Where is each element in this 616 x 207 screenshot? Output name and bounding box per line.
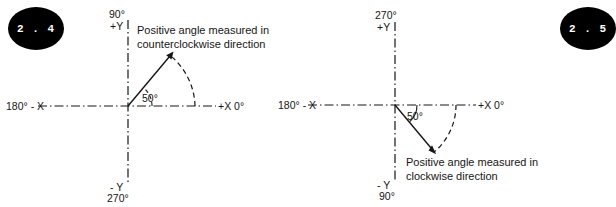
figure-2-5: 2 . 5 270° +Y - Y 90° 180° - X +X 0° 50°… [276,0,552,207]
y-axis-top-degree-label: 90° [109,8,125,20]
y-axis-positive-label: +Y [377,21,390,33]
y-axis-bottom-degree-label: 90° [379,190,395,202]
x-axis-negative-label: 180° - X [6,100,44,112]
angle-sweep-arc [434,105,456,152]
angle-sweep-arc [172,57,195,106]
y-axis-top-degree-label: 270° [375,9,397,21]
y-axis-bottom-degree-label: 270° [107,192,129,204]
figure-caption: Positive angle measured in counterclockw… [137,24,297,51]
x-axis-positive-label: +X 0° [218,100,244,112]
angle-value-label: 50° [407,110,423,122]
figure-number-badge: 2 . 5 [560,7,616,50]
figure-number-badge: 2 . 4 [8,7,64,50]
x-axis-positive-label: +X 0° [478,99,504,111]
figure-2-4: 2 . 4 90° +Y - Y 270° 180° - X +X 0° 50°… [0,0,276,207]
x-axis-negative-label: 180° - X [278,99,316,111]
angle-value-label: 50° [142,92,158,104]
figure-caption: Positive angle measured in clockwise dir… [406,156,566,183]
y-axis-positive-label: +Y [110,20,123,32]
